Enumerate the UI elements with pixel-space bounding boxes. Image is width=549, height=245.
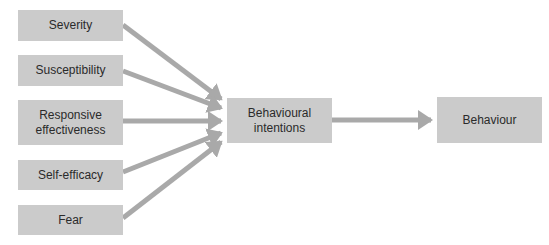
- susceptibility-box: Susceptibility: [18, 55, 123, 86]
- behavioural-intentions-label: Behavioural intentions: [242, 106, 317, 136]
- responsive-effectiveness-box: Responsive effectiveness: [18, 100, 123, 145]
- severity-box: Severity: [18, 10, 123, 41]
- behaviour-box: Behaviour: [437, 97, 542, 143]
- severity-label: Severity: [49, 18, 92, 33]
- susceptibility-label: Susceptibility: [35, 63, 105, 78]
- self-efficacy-box: Self-efficacy: [18, 160, 123, 190]
- self-efficacy-label: Self-efficacy: [38, 168, 103, 183]
- fear-label: Fear: [58, 213, 83, 228]
- responsive-effectiveness-label: Responsive effectiveness: [31, 108, 111, 138]
- fear-box: Fear: [18, 205, 123, 235]
- behavioural-intentions-box: Behavioural intentions: [227, 98, 332, 143]
- behaviour-label: Behaviour: [462, 113, 516, 128]
